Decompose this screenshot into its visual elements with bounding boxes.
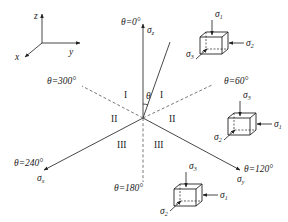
theta-symbol: θ [146,91,151,101]
theta-0-label: θ=0° [121,17,141,27]
sigma-z-label: σz [147,25,155,36]
cube-outline [228,113,256,135]
theta-60-label: θ=60° [224,76,249,86]
cube-mid-sigma1: σ1 [274,119,282,130]
cube-bot-sigma1: σ1 [220,190,228,201]
cube-outline [174,184,202,206]
sigma-x-label: σx [37,173,45,184]
theta-120-label: θ=120° [244,164,273,174]
x-axis-arrow [25,43,42,57]
sigma-x-axis [44,118,143,170]
theta-300-label: θ=300° [47,76,76,86]
theta-arc [143,104,148,105]
coordinate-triad: z y x [14,11,80,62]
theta-line [143,42,170,118]
region-II-left: II [111,114,117,124]
region-I-right: I [160,90,163,100]
cube-top-sigma3: σ3 [186,49,194,60]
principal-axes [44,24,240,170]
y-axis-label: y [68,47,74,57]
stress-cube-bottom: σ3 σ1 σ2 [160,161,228,217]
stress-cube-top: σ1 σ2 σ3 [186,9,254,60]
theta-180-label: θ=180° [114,183,143,193]
z-axis-label: z [33,11,38,21]
cube-mid-sigma2: σ2 [214,132,222,143]
deviatoric-plane-diagram: z y x θ=0° σz θ=300° θ=60° θ=240° σx θ=1… [0,0,288,222]
sigma-y-label: σy [237,174,245,185]
cube-outline [200,32,228,54]
region-III-left: III [117,140,127,150]
theta-240-label: θ=240° [14,158,43,168]
cube-bot-sigma3: σ3 [189,161,197,172]
cube-top-sigma2: σ2 [246,38,254,49]
cube-mid-sigma3: σ3 [243,90,251,101]
stress-cube-middle: σ3 σ1 σ2 [214,90,282,143]
region-I-left: I [124,90,127,100]
region-III-right: III [154,140,164,150]
x-axis-label: x [14,52,20,62]
cube-top-sigma1: σ1 [215,9,223,20]
cube-bot-sigma2: σ2 [160,206,168,217]
region-II-right: II [169,114,175,124]
